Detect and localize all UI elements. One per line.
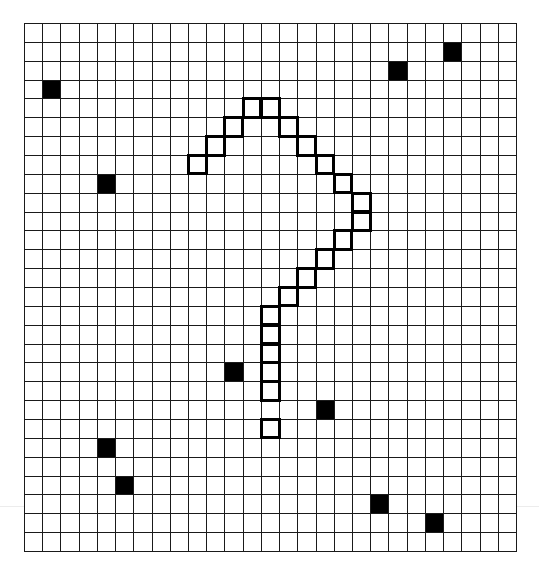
grid-cell[interactable]: [42, 438, 60, 457]
grid-cell[interactable]: [480, 476, 498, 495]
grid-cell[interactable]: [115, 174, 133, 193]
grid-cell[interactable]: [480, 42, 498, 61]
grid-cell[interactable]: [79, 494, 97, 513]
grid-cell[interactable]: [243, 268, 261, 287]
grid-cell[interactable]: [261, 42, 279, 61]
grid-cell[interactable]: [316, 513, 334, 532]
grid-cell[interactable]: [152, 381, 170, 400]
grid-cell[interactable]: [425, 230, 443, 249]
grid-cell[interactable]: [97, 381, 115, 400]
grid-cell[interactable]: [370, 476, 388, 495]
grid-cell[interactable]: [261, 230, 279, 249]
grid-cell[interactable]: [79, 513, 97, 532]
grid-cell[interactable]: [498, 212, 516, 231]
grid-cell[interactable]: [188, 532, 206, 551]
grid-cell[interactable]: [352, 42, 370, 61]
grid-cell[interactable]: [297, 61, 315, 80]
grid-cell[interactable]: [370, 419, 388, 438]
grid-cell[interactable]: [279, 438, 297, 457]
grid-cell[interactable]: [243, 532, 261, 551]
grid-cell[interactable]: [334, 400, 352, 419]
grid-cell[interactable]: [133, 476, 151, 495]
grid-cell[interactable]: [334, 268, 352, 287]
grid-cell[interactable]: [152, 344, 170, 363]
grid-cell[interactable]: [279, 212, 297, 231]
grid-cell[interactable]: [188, 513, 206, 532]
grid-cell[interactable]: [370, 174, 388, 193]
grid-cell[interactable]: [316, 494, 334, 513]
grid-cell[interactable]: [498, 23, 516, 42]
grid-cell[interactable]: [334, 155, 352, 174]
grid-cell[interactable]: [224, 287, 242, 306]
grid-cell[interactable]: [480, 23, 498, 42]
grid-cell[interactable]: [352, 117, 370, 136]
grid-cell[interactable]: [297, 381, 315, 400]
grid-cell[interactable]: [388, 230, 406, 249]
grid-cell[interactable]: [170, 306, 188, 325]
grid-cell[interactable]: [188, 230, 206, 249]
grid-cell[interactable]: [279, 362, 297, 381]
grid-cell[interactable]: [60, 193, 78, 212]
grid-cell[interactable]: [480, 438, 498, 457]
grid-cell[interactable]: [97, 362, 115, 381]
grid-cell[interactable]: [42, 42, 60, 61]
grid-cell[interactable]: [42, 117, 60, 136]
grid-cell[interactable]: [297, 476, 315, 495]
grid-cell[interactable]: [24, 23, 42, 42]
grid-cell[interactable]: [407, 325, 425, 344]
grid-cell[interactable]: [60, 419, 78, 438]
grid-cell[interactable]: [352, 98, 370, 117]
grid-cell[interactable]: [97, 193, 115, 212]
grid-cell[interactable]: [407, 98, 425, 117]
grid-cell[interactable]: [42, 174, 60, 193]
grid-cell[interactable]: [97, 325, 115, 344]
grid-cell[interactable]: [24, 306, 42, 325]
grid-cell[interactable]: [425, 381, 443, 400]
grid-cell[interactable]: [443, 249, 461, 268]
filled-cell[interactable]: [97, 438, 115, 457]
grid-cell[interactable]: [388, 513, 406, 532]
grid-cell[interactable]: [152, 230, 170, 249]
grid-cell[interactable]: [407, 136, 425, 155]
grid-cell[interactable]: [115, 212, 133, 231]
grid-cell[interactable]: [443, 287, 461, 306]
grid-cell[interactable]: [224, 193, 242, 212]
grid-cell[interactable]: [243, 494, 261, 513]
grid-cell[interactable]: [498, 249, 516, 268]
grid-cell[interactable]: [480, 155, 498, 174]
grid-cell[interactable]: [224, 23, 242, 42]
grid-cell[interactable]: [425, 494, 443, 513]
grid-cell[interactable]: [480, 381, 498, 400]
grid-cell[interactable]: [480, 230, 498, 249]
grid-cell[interactable]: [206, 362, 224, 381]
grid-cell[interactable]: [352, 362, 370, 381]
grid-cell[interactable]: [79, 400, 97, 419]
grid-cell[interactable]: [461, 193, 479, 212]
grid-cell[interactable]: [97, 457, 115, 476]
grid-cell[interactable]: [42, 136, 60, 155]
grid-cell[interactable]: [243, 212, 261, 231]
grid-cell[interactable]: [316, 23, 334, 42]
grid-cell[interactable]: [334, 419, 352, 438]
grid-cell[interactable]: [297, 438, 315, 457]
grid-cell[interactable]: [152, 80, 170, 99]
grid-cell[interactable]: [316, 193, 334, 212]
grid-cell[interactable]: [170, 80, 188, 99]
grid-cell[interactable]: [133, 287, 151, 306]
grid-cell[interactable]: [316, 61, 334, 80]
grid-cell[interactable]: [279, 136, 297, 155]
grid-cell[interactable]: [261, 494, 279, 513]
grid-cell[interactable]: [443, 344, 461, 363]
grid-cell[interactable]: [461, 476, 479, 495]
grid-cell[interactable]: [334, 80, 352, 99]
grid-cell[interactable]: [152, 249, 170, 268]
grid-cell[interactable]: [279, 513, 297, 532]
grid-cell[interactable]: [224, 174, 242, 193]
grid-cell[interactable]: [279, 476, 297, 495]
grid-cell[interactable]: [480, 61, 498, 80]
grid-cell[interactable]: [297, 117, 315, 136]
grid-cell[interactable]: [261, 249, 279, 268]
grid-cell[interactable]: [60, 117, 78, 136]
grid-cell[interactable]: [370, 287, 388, 306]
grid-cell[interactable]: [42, 268, 60, 287]
